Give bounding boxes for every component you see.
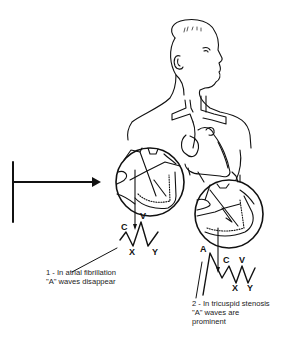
wave-label-x: X (129, 248, 135, 257)
caption-line: "A" waves are (192, 308, 270, 317)
caption-line: 1 - In atrial fibrillation (46, 268, 116, 277)
wave-label-c: C (121, 223, 128, 232)
caption-line: prominent (192, 317, 270, 326)
heart-illustration (182, 127, 241, 182)
wave-label-y: Y (247, 284, 253, 293)
caption-atrial-fibrillation: 1 - In atrial fibrillation "A" waves dis… (46, 268, 116, 286)
wave-label-x: X (232, 284, 238, 293)
waveform-1 (72, 222, 158, 272)
pointer-arrow (13, 162, 92, 222)
caption-tricuspid-stenosis: 2 - In tricuspid stenosis "A" waves are … (192, 299, 270, 326)
caption-line: "A" waves disappear (46, 277, 116, 286)
jvp-diagram: C V X Y 1 - In atrial fibrillation "A" w… (0, 0, 297, 339)
magnified-view-1 (116, 148, 184, 230)
wave-label-v: V (140, 212, 146, 221)
wave-label-a: A (200, 245, 207, 254)
wave-label-v: V (239, 256, 245, 265)
human-figure-illustration (128, 19, 251, 148)
wave-label-c: C (223, 256, 230, 265)
arrowhead-icon (92, 177, 101, 187)
caption-line: 2 - In tricuspid stenosis (192, 299, 270, 308)
wave-label-y: Y (152, 248, 158, 257)
